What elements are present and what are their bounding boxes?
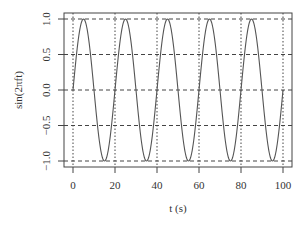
x-tick-label: 100 xyxy=(275,179,292,191)
x-tick-label: 40 xyxy=(152,179,164,191)
x-tick-label: 60 xyxy=(194,179,206,191)
x-tick-label: 0 xyxy=(70,179,76,191)
y-tick-label: 0.0 xyxy=(40,83,52,97)
x-axis: 020406080100 xyxy=(70,167,292,191)
x-tick-label: 80 xyxy=(236,179,248,191)
y-tick-label: −0.5 xyxy=(40,115,52,135)
y-tick-label: 1.0 xyxy=(40,12,52,26)
x-axis-title: t (s) xyxy=(169,202,187,215)
x-tick-label: 20 xyxy=(110,179,122,191)
y-tick-label: 0.5 xyxy=(40,47,52,61)
y-tick-label: −1.0 xyxy=(40,151,52,171)
y-axis: −1.0−0.50.00.51.0 xyxy=(40,12,64,171)
sine-wave-chart: 020406080100 −1.0−0.50.00.51.0 t (s) sin… xyxy=(0,0,305,228)
y-axis-title: sin(2πft) xyxy=(12,71,25,109)
sine-curve xyxy=(73,19,283,161)
